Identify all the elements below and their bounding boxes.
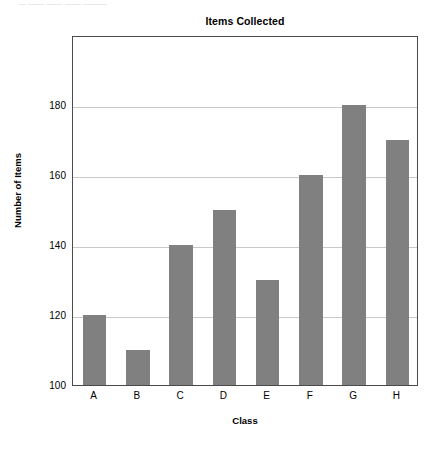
y-tick-label-120: 120 (26, 311, 66, 321)
chart-title: Items Collected (72, 15, 418, 28)
bars-layer (73, 37, 417, 385)
bar-A (83, 315, 106, 385)
x-axis-tick-labels: ABCDEFGH (72, 390, 418, 404)
x-axis-title: Class (72, 415, 418, 427)
y-axis-title: Number of Items (12, 136, 23, 246)
bar-C (169, 245, 192, 385)
bar-H (386, 140, 409, 385)
x-tick-label-G: G (332, 390, 375, 402)
bar-B (126, 350, 149, 385)
x-tick-label-B: B (115, 390, 158, 402)
bar-D (213, 210, 236, 385)
y-tick-label-160: 160 (26, 171, 66, 181)
y-tick-label-140: 140 (26, 241, 66, 251)
x-tick-label-H: H (375, 390, 418, 402)
y-tick-label-100: 100 (26, 381, 66, 391)
y-axis-tick-labels: 100120140160180 (22, 36, 66, 386)
x-tick-label-D: D (202, 390, 245, 402)
bar-F (299, 175, 322, 385)
clipped-text-artifact: — —— —— —— ——— (18, 0, 198, 7)
bar-chart-figure: — —— —— —— ——— Items Collected 100120140… (0, 0, 443, 450)
x-tick-label-E: E (245, 390, 288, 402)
bar-E (256, 280, 279, 385)
bar-G (342, 105, 365, 385)
x-tick-label-A: A (72, 390, 115, 402)
y-tick-label-180: 180 (26, 101, 66, 111)
plot-area (72, 36, 418, 386)
x-tick-label-F: F (288, 390, 331, 402)
x-tick-label-C: C (159, 390, 202, 402)
